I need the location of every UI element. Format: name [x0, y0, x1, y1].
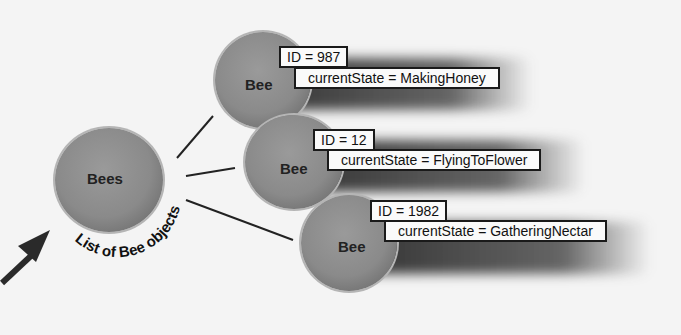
bee-3-label: Bee [338, 238, 366, 255]
bee-1-label: Bee [245, 76, 273, 93]
bee-2-id: ID = 12 [313, 129, 375, 151]
bee-3-id: ID = 1982 [370, 200, 447, 222]
pointer-arrow-icon [2, 230, 50, 283]
bee-1-id: ID = 987 [279, 46, 348, 68]
bee-3-state: currentState = GatheringNectar [384, 220, 607, 242]
bee-2-state: currentState = FlyingToFlower [327, 149, 541, 171]
bee-2-label: Bee [280, 160, 308, 177]
bee-1-state: currentState = MakingHoney [294, 67, 500, 89]
bees-list-label: Bees [87, 170, 123, 187]
connector-bee-2 [186, 168, 235, 176]
connector-bee-1 [177, 116, 213, 158]
